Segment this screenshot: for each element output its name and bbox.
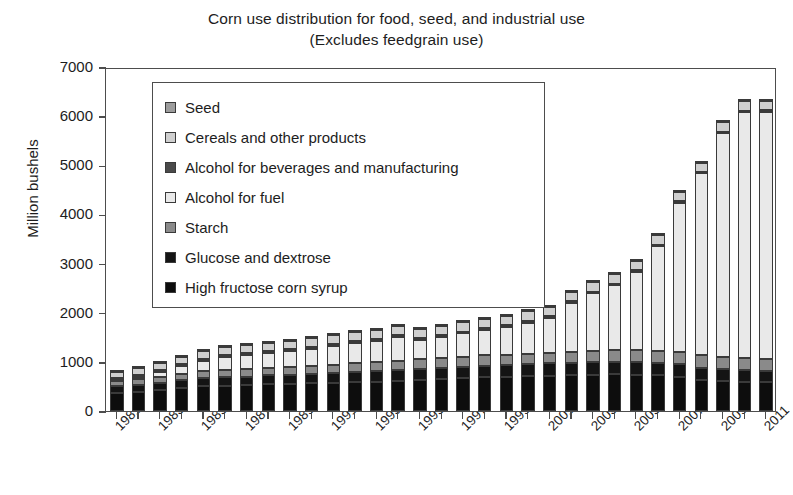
bar-segment — [391, 326, 404, 335]
bar-segment — [630, 362, 643, 375]
bar-segment — [521, 321, 534, 323]
bar-segment — [478, 355, 491, 365]
bar-segment — [110, 378, 123, 380]
bar-segment — [132, 377, 145, 379]
bar-segment — [132, 375, 145, 377]
bar-segment — [608, 274, 621, 283]
bar-segment — [391, 335, 404, 337]
bar — [197, 350, 210, 411]
y-tick-label: 0 — [0, 402, 93, 419]
bar-segment — [630, 261, 643, 270]
bar-segment — [435, 326, 448, 335]
bar-segment — [197, 351, 210, 359]
bar-segment — [716, 122, 729, 131]
x-tick-mark — [484, 412, 485, 419]
bar-segment — [218, 370, 231, 377]
legend-item[interactable]: Alcohol for beverages and manufacturing — [165, 152, 544, 182]
legend-label: Alcohol for beverages and manufacturing — [185, 160, 459, 175]
bar-segment — [543, 363, 556, 375]
bar-segment — [391, 381, 404, 411]
legend-item[interactable]: Starch — [165, 212, 544, 242]
bar-segment — [521, 354, 534, 365]
bar-segment — [543, 318, 556, 353]
bar-segment — [175, 357, 188, 364]
legend-item[interactable]: Cereals and other products — [165, 122, 544, 152]
bar-segment — [413, 369, 426, 380]
bar-segment — [153, 383, 166, 390]
bar-segment — [240, 355, 253, 369]
bar-segment — [673, 192, 686, 201]
bar-segment — [327, 365, 340, 373]
bar-segment — [651, 233, 664, 235]
y-tick-label: 3000 — [0, 255, 93, 272]
bar-segment — [586, 282, 599, 291]
x-tick-mark — [441, 412, 442, 419]
bar-segment — [565, 292, 578, 301]
bar-segment — [262, 375, 275, 384]
bar-segment — [695, 163, 708, 172]
chart-title: Corn use distribution for food, seed, an… — [0, 8, 793, 29]
bar-segment — [456, 333, 469, 357]
bar-segment — [500, 314, 513, 316]
bar-segment — [391, 370, 404, 381]
legend-swatch-icon — [165, 282, 176, 293]
legend-item[interactable]: Glucose and dextrose — [165, 242, 544, 272]
legend-label: High fructose corn syrup — [185, 280, 348, 295]
bar-segment — [500, 316, 513, 325]
bar-segment — [348, 341, 361, 343]
bar-segment — [391, 324, 404, 326]
bar-segment — [283, 375, 296, 384]
bar-segment — [456, 378, 469, 411]
bar-segment — [738, 370, 751, 382]
bar-segment — [586, 362, 599, 374]
bar-segment — [565, 352, 578, 363]
legend-item[interactable]: Alcohol for fuel — [165, 182, 544, 212]
bar-segment — [153, 370, 166, 372]
bar-segment — [608, 374, 621, 411]
bar-segment — [262, 343, 275, 351]
bar-segment — [110, 372, 123, 379]
y-tick-label: 4000 — [0, 205, 93, 222]
bar-segment — [153, 363, 166, 370]
bar — [153, 362, 166, 411]
bar-segment — [435, 368, 448, 379]
bar-segment — [110, 381, 123, 386]
bar-segment — [565, 290, 578, 292]
bar-segment — [478, 317, 491, 319]
bar-segment — [132, 379, 145, 385]
x-tick-mark — [137, 412, 138, 419]
bar-segment — [543, 316, 556, 318]
bar-segment — [348, 382, 361, 411]
bar-segment — [565, 301, 578, 303]
bar-segment — [500, 377, 513, 411]
bar-segment — [608, 285, 621, 350]
x-tick-mark — [570, 412, 571, 419]
bar-segment — [305, 347, 318, 349]
bar-segment — [759, 359, 772, 371]
bar-segment — [565, 303, 578, 352]
bar-segment — [262, 384, 275, 411]
bar-segment — [695, 173, 708, 355]
bar-segment — [218, 355, 231, 357]
bar-segment — [175, 364, 188, 366]
bar-segment — [153, 390, 166, 411]
bar-segment — [327, 344, 340, 346]
legend-item[interactable]: Seed — [165, 92, 544, 122]
bar — [240, 344, 253, 411]
bar-segment — [456, 331, 469, 333]
bar-segment — [132, 392, 145, 411]
bar-segment — [283, 351, 296, 367]
legend-swatch-icon — [165, 252, 176, 263]
bar-segment — [521, 311, 534, 320]
bar-segment — [305, 336, 318, 338]
bar-segment — [630, 272, 643, 351]
bar — [608, 273, 621, 411]
bar-segment — [262, 353, 275, 368]
x-tick-mark — [700, 412, 701, 419]
bar-segment — [738, 101, 751, 110]
bar-segment — [521, 364, 534, 376]
bar-segment — [348, 332, 361, 341]
bar-segment — [500, 355, 513, 365]
legend-item[interactable]: High fructose corn syrup — [165, 272, 544, 302]
bar-segment — [608, 272, 621, 274]
